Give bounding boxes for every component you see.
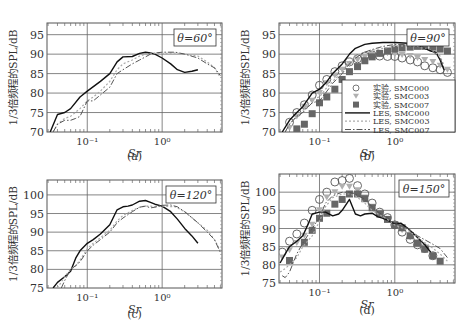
ytick-label: 90 xyxy=(30,48,44,61)
marker-square xyxy=(429,252,436,259)
xtick-label: 10⁻¹ xyxy=(76,136,98,147)
legend-label: LES, SMC007 xyxy=(373,126,430,135)
ytick-label: 90 xyxy=(262,223,276,236)
legend: 实验, SMC000实验, SMC003实验, SMC007LES, SMC00… xyxy=(342,80,455,135)
y-axis-label: 1/3倍频程的SPL/dB xyxy=(239,29,251,125)
ytick-label: 90 xyxy=(262,48,276,61)
xtick-label: 10⁰ xyxy=(154,292,171,303)
marker-square xyxy=(354,63,361,70)
ytick-label: 80 xyxy=(30,263,44,276)
legend-marker-square xyxy=(353,102,359,108)
ytick-label: 80 xyxy=(30,87,44,100)
ytick-label: 85 xyxy=(262,68,276,81)
xtick-label: 10⁻¹ xyxy=(308,136,330,147)
xtick-label: 10⁻¹ xyxy=(308,287,330,298)
ytick-label: 85 xyxy=(262,241,276,254)
ytick-label: 75 xyxy=(30,282,44,295)
marker-square xyxy=(376,50,383,57)
ytick-label: 80 xyxy=(262,87,276,100)
angle-annotation: θ=90° xyxy=(410,32,445,45)
panel-caption: (c) xyxy=(127,308,142,321)
ytick-label: 95 xyxy=(262,29,276,42)
y-axis-label: 1/3倍频程的SPL/dB xyxy=(239,180,251,276)
marker-square xyxy=(444,48,451,55)
ytick-label: 85 xyxy=(30,68,44,81)
marker-square xyxy=(339,196,346,203)
marker-square xyxy=(437,258,444,265)
marker-square xyxy=(286,257,293,264)
ytick-label: 80 xyxy=(262,259,276,272)
angle-annotation: θ=150° xyxy=(403,183,445,196)
y-axis-label: 1/3倍频程的SPL/dB xyxy=(7,186,19,282)
chart-panel-c: 758085909510010⁻¹10⁰θ=120°Sr1/3倍频程的SPL/d… xyxy=(7,180,222,321)
ytick-label: 90 xyxy=(30,226,44,239)
marker-square xyxy=(361,57,368,64)
marker-square xyxy=(331,86,338,93)
xtick-label: 10⁰ xyxy=(154,136,171,147)
ytick-label: 75 xyxy=(262,277,276,290)
angle-annotation: θ=60° xyxy=(177,32,212,45)
xtick-label: 10⁻¹ xyxy=(76,292,98,303)
ytick-label: 100 xyxy=(255,186,276,199)
figure-svg: 70758085909510⁻¹10⁰θ=60°Sr1/3倍频程的SPL/dB(… xyxy=(0,0,469,328)
ytick-label: 95 xyxy=(30,29,44,42)
chart-panel-a: 70758085909510⁻¹10⁰θ=60°Sr1/3倍频程的SPL/dB(… xyxy=(7,23,222,163)
panel-caption: (b) xyxy=(359,150,375,163)
ytick-label: 70 xyxy=(262,126,276,139)
ytick-label: 75 xyxy=(262,107,276,120)
panel-caption: (a) xyxy=(127,150,142,163)
marker-square xyxy=(437,46,444,53)
marker-square xyxy=(323,93,330,100)
marker-square xyxy=(301,121,308,128)
ytick-label: 85 xyxy=(30,245,44,258)
marker-square xyxy=(369,204,376,211)
ytick-label: 75 xyxy=(30,107,44,120)
marker-square xyxy=(369,53,376,60)
y-axis-label: 1/3倍频程的SPL/dB xyxy=(7,29,19,125)
ytick-label: 95 xyxy=(30,208,44,221)
xtick-label: 10⁰ xyxy=(386,136,403,147)
chart-panel-b: 70758085909510⁻¹10⁰θ=90°Sr1/3倍频程的SPL/dB(… xyxy=(239,23,455,163)
marker-square xyxy=(346,68,353,75)
panel-caption: (d) xyxy=(359,304,375,317)
angle-annotation: θ=120° xyxy=(170,189,212,202)
marker-square xyxy=(384,48,391,55)
ytick-label: 70 xyxy=(30,126,44,139)
ytick-label: 95 xyxy=(262,204,276,217)
xtick-label: 10⁰ xyxy=(386,287,403,298)
ytick-label: 100 xyxy=(23,189,44,202)
marker-square xyxy=(293,125,300,132)
marker-square xyxy=(331,201,338,208)
marker-square xyxy=(309,110,316,117)
chart-panel-d: 758085909510010⁻¹10⁰θ=150°Sr1/3倍频程的SPL/d… xyxy=(239,174,455,317)
marker-square xyxy=(346,190,353,197)
